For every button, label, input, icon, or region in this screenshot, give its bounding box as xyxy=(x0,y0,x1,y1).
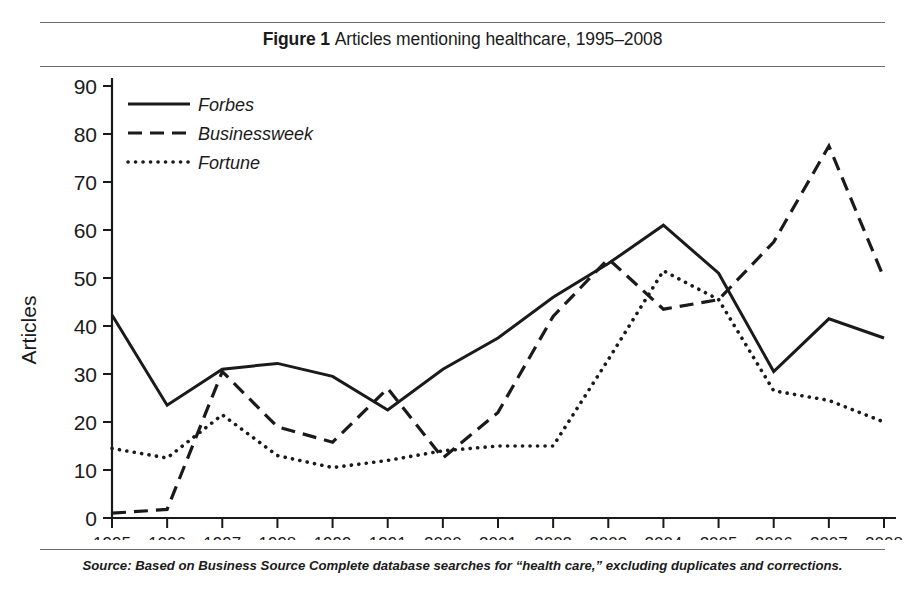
y-axis-tick-label: 50 xyxy=(74,267,97,290)
x-axis-tick-label: 1991 xyxy=(369,534,407,540)
y-axis-title: Articles xyxy=(17,296,40,365)
x-axis-tick-label: 1997 xyxy=(203,534,241,540)
x-axis-tick-label: 2000 xyxy=(424,534,462,540)
series-line-businessweek xyxy=(112,146,884,513)
bottom-divider-rule xyxy=(40,549,885,550)
x-axis-tick-label: 2002 xyxy=(534,534,572,540)
x-axis-tick-label: 1998 xyxy=(259,534,297,540)
y-axis-tick-label: 0 xyxy=(85,507,97,530)
legend-label-fortune: Fortune xyxy=(198,153,260,173)
figure-title: Figure 1 Articles mentioning healthcare,… xyxy=(40,29,885,50)
y-axis-tick-label: 80 xyxy=(74,123,97,146)
x-axis-tick-label: 2004 xyxy=(645,534,683,540)
figure-number-label: Figure 1 xyxy=(263,29,330,49)
x-axis-tick-label: 2003 xyxy=(589,534,627,540)
y-axis-tick-label: 30 xyxy=(74,363,97,386)
x-axis-tick-label: 2001 xyxy=(479,534,517,540)
y-axis-tick-label: 20 xyxy=(74,411,97,434)
y-axis-tick-label: 90 xyxy=(74,75,97,98)
x-axis-tick-label: 2006 xyxy=(755,534,793,540)
x-axis-tick-label: 1999 xyxy=(314,534,352,540)
top-divider-rule xyxy=(40,22,885,23)
title-divider-rule xyxy=(40,66,885,67)
y-axis-tick-label: 10 xyxy=(74,459,97,482)
y-axis-tick-label: 60 xyxy=(74,219,97,242)
y-axis-tick-label: 40 xyxy=(74,315,97,338)
legend-label-forbes: Forbes xyxy=(198,95,254,115)
x-axis-tick-label: 2007 xyxy=(810,534,848,540)
y-axis: 0102030405060708090 xyxy=(74,75,112,530)
line-chart-svg: 0102030405060708090 19951996199719981999… xyxy=(0,70,923,540)
x-axis-tick-label: 1995 xyxy=(93,534,131,540)
source-note: Source: Based on Business Source Complet… xyxy=(40,558,885,573)
x-axis-tick-label: 1996 xyxy=(148,534,186,540)
x-axis-tick-label: 2005 xyxy=(700,534,738,540)
data-series-group xyxy=(112,146,884,513)
chart-legend: ForbesBusinessweekFortune xyxy=(128,95,314,173)
figure-caption-text: Articles mentioning healthcare, 1995–200… xyxy=(335,29,663,49)
x-axis-tick-label: 2008 xyxy=(865,534,903,540)
figure-page: Figure 1 Articles mentioning healthcare,… xyxy=(0,0,923,597)
chart-plot-area: 0102030405060708090 19951996199719981999… xyxy=(0,70,923,540)
legend-label-businessweek: Businessweek xyxy=(198,124,314,144)
x-axis: 1995199619971998199919912000200120022003… xyxy=(93,518,903,540)
y-axis-tick-label: 70 xyxy=(74,171,97,194)
